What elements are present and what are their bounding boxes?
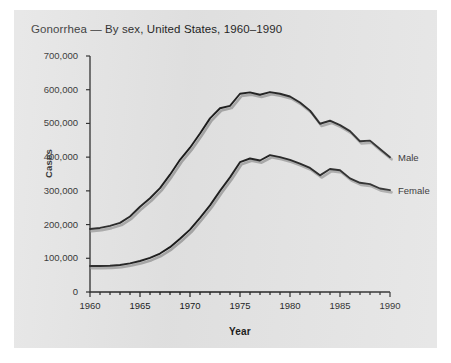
figure-panel: Gonorrhea — By sex, United States, 1960–… (14, 10, 437, 348)
axes-group (86, 56, 390, 297)
line-chart-svg (14, 10, 437, 348)
plot-area: Cases Year 0100,000200,000300,000400,000… (14, 10, 437, 348)
series-group (90, 92, 392, 268)
